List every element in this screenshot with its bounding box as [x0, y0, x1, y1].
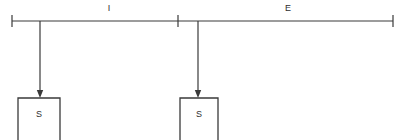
node-box-left	[18, 98, 60, 140]
node-box-right	[180, 98, 218, 140]
segment-label-e: E	[285, 3, 291, 13]
node-label-right: S	[196, 109, 202, 119]
node-label-left: S	[36, 109, 42, 119]
diagram-canvas: I E S S	[0, 0, 411, 140]
diagram-svg: I E S S	[0, 0, 411, 140]
segment-label-i: I	[108, 3, 111, 13]
arrow-head-right-icon	[195, 90, 201, 98]
arrow-head-left-icon	[37, 90, 43, 98]
